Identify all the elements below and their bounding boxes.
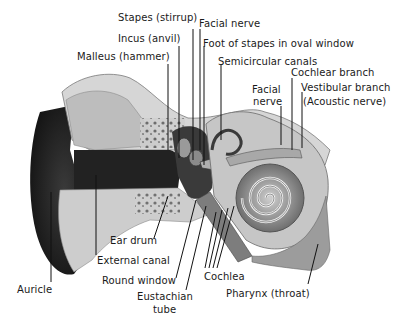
label-facial-nerve-right-2: nerve	[253, 96, 282, 108]
label-acoustic-nerve: (Acoustic nerve)	[303, 96, 386, 108]
label-ear-drum: Ear drum	[110, 235, 157, 247]
label-facial-nerve-top: Facial nerve	[199, 18, 260, 30]
label-eustachian-2: tube	[153, 304, 176, 316]
external-canal-shape	[74, 150, 181, 192]
label-pharynx: Pharynx (throat)	[226, 288, 310, 300]
label-round-window: Round window	[102, 275, 176, 287]
label-stapes: Stapes (stirrup)	[118, 12, 197, 24]
lower-air-cells	[135, 192, 180, 214]
label-cochlear-branch: Cochlear branch	[291, 67, 375, 79]
label-cochlea: Cochlea	[204, 271, 245, 283]
label-malleus: Malleus (hammer)	[77, 51, 170, 63]
label-auricle: Auricle	[17, 284, 52, 296]
label-eustachian-1: Eustachian	[137, 291, 193, 303]
label-foot-of-stapes: Foot of stapes in oval window	[203, 38, 354, 50]
label-facial-nerve-right-1: Facial	[252, 84, 281, 96]
label-incus: Incus (anvil)	[118, 33, 181, 45]
label-vestibular-branch: Vestibular branch	[301, 82, 390, 94]
label-external-canal: External canal	[97, 255, 170, 267]
